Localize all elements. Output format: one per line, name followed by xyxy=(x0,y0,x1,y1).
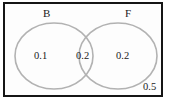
venn-diagram-figure: B F 0.1 0.2 0.2 0.5 xyxy=(0,0,171,103)
region-value-intersection: 0.2 xyxy=(76,50,89,61)
set-b-label: B xyxy=(43,8,50,19)
region-value-f-only: 0.2 xyxy=(116,50,129,61)
region-value-b-only: 0.1 xyxy=(34,50,47,61)
region-value-outside: 0.5 xyxy=(143,81,156,92)
set-f-label: F xyxy=(125,8,131,19)
